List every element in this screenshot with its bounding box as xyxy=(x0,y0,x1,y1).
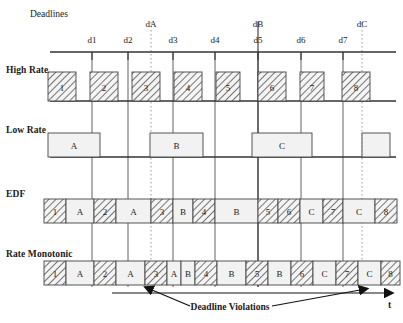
edf-block-label: 7 xyxy=(331,208,336,217)
edf-block-label: 8 xyxy=(384,208,389,217)
tick-label-d4: d4 xyxy=(211,36,220,45)
tick-label-d1: d1 xyxy=(88,36,97,45)
deadline-violations-label: Deadline Violations xyxy=(191,303,270,313)
deadlines-title: Deadlines xyxy=(30,10,68,20)
task-deadline-label-dC: dC xyxy=(357,20,368,29)
edf-block-label: B xyxy=(233,208,239,217)
rate-monotonic-block-label: 2 xyxy=(103,270,108,279)
row-label-high-rate: High Rate xyxy=(6,66,48,76)
high-rate-block-label: 3 xyxy=(144,83,149,92)
tick-label-d3: d3 xyxy=(169,36,178,45)
row-label-low-rate: Low Rate xyxy=(6,126,46,136)
edf-block-label: A xyxy=(130,208,137,217)
rate-monotonic-block-label: 7 xyxy=(345,270,350,279)
low-rate-block xyxy=(362,133,390,157)
row-label-rate-monotonic: Rate Monotonic xyxy=(6,250,73,260)
gridlines-group xyxy=(92,22,362,287)
row-axes-group xyxy=(50,52,396,157)
edf-block-label: A xyxy=(77,208,84,217)
high-rate-block-label: 5 xyxy=(226,83,231,92)
rate-monotonic-block-label: 4 xyxy=(204,270,209,279)
task-blocks-group xyxy=(44,72,400,285)
rate-monotonic-block-label: A xyxy=(127,270,134,279)
edf-block-label: C xyxy=(308,208,314,217)
rate-monotonic-block-label: C xyxy=(366,270,372,279)
rate-monotonic-block-label: 1 xyxy=(53,270,58,279)
edf-block-label: B xyxy=(180,208,186,217)
tick-label-d2: d2 xyxy=(124,36,133,45)
rate-monotonic-block-label: A xyxy=(77,270,84,279)
rate-monotonic-block-label: 3 xyxy=(154,270,159,279)
tick-label-d6: d6 xyxy=(297,36,306,45)
low-rate-block-label: A xyxy=(71,142,78,151)
high-rate-block-label: 1 xyxy=(60,83,65,92)
high-rate-block-label: 6 xyxy=(270,83,275,92)
rate-monotonic-block-label: B xyxy=(228,270,234,279)
high-rate-block-label: 4 xyxy=(186,83,191,92)
task-deadline-label-dB: dB xyxy=(253,20,264,29)
rate-monotonic-block-label: 6 xyxy=(300,270,305,279)
diagram-canvas xyxy=(0,0,403,323)
row-label-edf: EDF xyxy=(6,190,25,200)
edf-block-label: 4 xyxy=(202,208,207,217)
rate-monotonic-block-label: B xyxy=(185,270,191,279)
scheduling-timing-diagram: Deadlines d1d2d3d4d5d6d7 dAdBdC High Rat… xyxy=(0,0,403,323)
edf-block-label: C xyxy=(356,208,362,217)
low-rate-block-label: C xyxy=(279,142,285,151)
rate-monotonic-block-label: 8 xyxy=(388,270,393,279)
time-axis-label: t xyxy=(388,301,391,311)
tick-label-d5: d5 xyxy=(254,36,263,45)
high-rate-block-label: 7 xyxy=(310,83,315,92)
rate-monotonic-block-label: 5 xyxy=(255,270,260,279)
rate-monotonic-block-label: A xyxy=(171,270,178,279)
low-rate-block-label: B xyxy=(173,142,179,151)
edf-block-label: 2 xyxy=(103,208,108,217)
rate-monotonic-block-label: B xyxy=(276,270,282,279)
high-rate-block-label: 2 xyxy=(102,83,107,92)
edf-block-label: 3 xyxy=(160,208,165,217)
edf-block-label: 5 xyxy=(266,208,271,217)
edf-block-label: 1 xyxy=(53,208,58,217)
tick-label-d7: d7 xyxy=(339,36,348,45)
task-deadline-label-dA: dA xyxy=(146,20,157,29)
edf-block-label: 6 xyxy=(287,208,292,217)
high-rate-block-label: 8 xyxy=(354,83,359,92)
rate-monotonic-block-label: C xyxy=(321,270,327,279)
